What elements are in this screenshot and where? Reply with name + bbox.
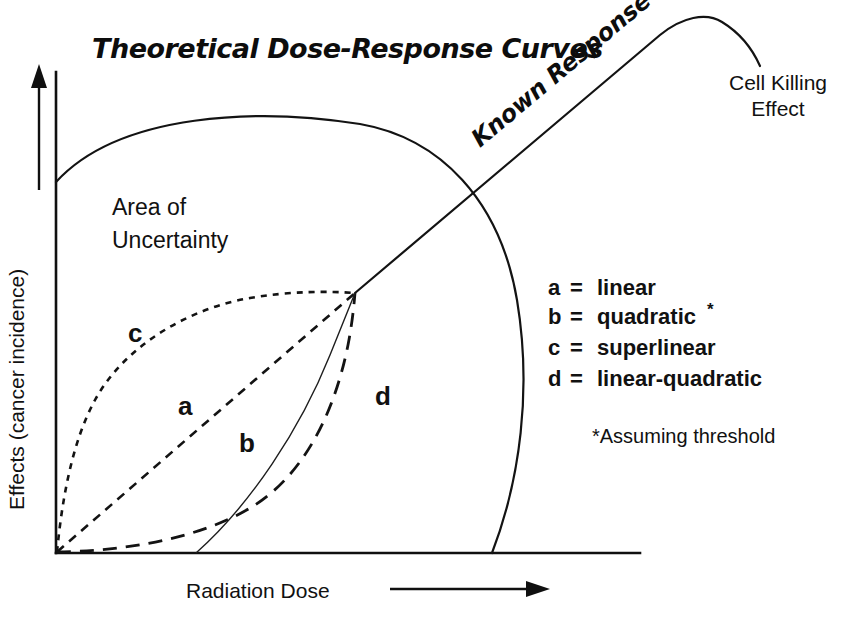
cell-killing-label-line2: Effect [751,97,804,120]
legend-footnote: *Assuming threshold [592,425,775,447]
curve-label-c: c [128,318,142,348]
legend-row-a: a = linear [548,275,656,300]
y-axis-label: Effects (cancer incidence) [5,269,28,510]
page-title: Theoretical Dose-Response Curves [92,33,603,64]
legend-key-d: d [548,366,561,391]
area-of-uncertainty-line1: Area of [112,194,187,220]
up-arrow-head [31,64,47,88]
legend-eq-c: = [570,335,583,360]
legend-eq-b: = [570,304,583,329]
curve-a-linear [57,293,355,552]
legend: a = linear b = quadratic * c = superline… [548,275,775,447]
legend-row-c: c = superlinear [548,335,716,360]
dose-response-diagram: Theoretical Dose-Response Curves Known R… [0,0,865,629]
legend-key-a: a [548,275,561,300]
legend-label-a: linear [597,275,656,300]
legend-label-c: superlinear [597,335,716,360]
known-response-label: Known Response [466,0,656,153]
right-arrow-icon [390,581,550,597]
legend-eq-a: = [570,275,583,300]
uncertainty-boundary-arc [56,116,524,553]
right-arrow-head [526,581,550,597]
curve-b-quadratic [196,293,355,553]
legend-star-b: * [707,300,714,319]
legend-row-d: d = linear-quadratic [548,366,762,391]
up-arrow-icon [31,64,47,190]
legend-label-b: quadratic [597,304,696,329]
cell-killing-label-line1: Cell Killing [729,71,827,94]
curve-label-a: a [178,391,193,421]
figure-canvas: Theoretical Dose-Response Curves Known R… [0,0,865,629]
curve-label-b: b [239,428,255,458]
legend-row-b: b = quadratic * [548,300,714,329]
legend-label-d: linear-quadratic [597,366,762,391]
x-axis-label: Radiation Dose [186,579,330,602]
legend-eq-d: = [570,366,583,391]
legend-key-c: c [548,335,560,360]
curve-label-d: d [375,381,391,411]
area-of-uncertainty-line2: Uncertainty [112,227,229,253]
legend-key-b: b [548,304,561,329]
